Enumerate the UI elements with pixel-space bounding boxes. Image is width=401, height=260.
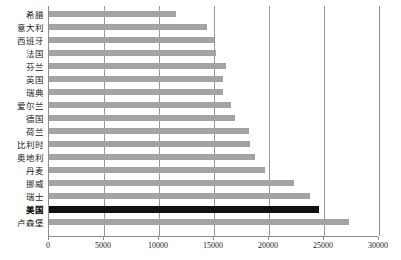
category-label-2: 意大利 [0,24,44,33]
bars-layer [49,6,378,236]
tick-label-5000: 5000 [95,241,111,251]
bar-row [49,177,379,190]
bar-row [49,125,379,138]
bar-row [49,47,379,60]
category-label-1: 希腊 [0,11,44,20]
category-label-7: 瑞典 [0,89,44,98]
bar-7 [49,89,223,95]
category-label-5: 芬兰 [0,63,44,72]
tick-mark-30000 [378,237,379,240]
bar-8 [49,102,231,108]
bar-6 [49,76,223,82]
bar-row [49,99,379,112]
tick-label-10000: 10000 [148,241,168,251]
bar-row [49,112,379,125]
bar-row [49,8,379,21]
category-axis: 希腊意大利西班牙法国芬兰英国瑞典爱尔兰德国荷兰比利时奥地利丹麦挪威瑞士美国卢森堡 [0,8,46,236]
bar-17 [49,219,349,225]
bar-chart: 希腊意大利西班牙法国芬兰英国瑞典爱尔兰德国荷兰比利时奥地利丹麦挪威瑞士美国卢森堡… [0,0,401,260]
category-label-16: 美国 [0,206,44,215]
bar-row [49,21,379,34]
category-label-3: 西班牙 [0,37,44,46]
bar-row [49,138,379,151]
bar-4 [49,50,216,56]
plot-area [48,6,378,237]
tick-label-0: 0 [46,241,50,251]
bar-row [49,86,379,99]
category-label-13: 丹麦 [0,167,44,176]
tick-mark-0 [48,237,49,240]
category-label-17: 卢森堡 [0,219,44,228]
bar-12 [49,154,255,160]
value-axis: 050001000015000200002500030000 [48,237,378,257]
category-label-15: 瑞士 [0,193,44,202]
bar-row [49,203,379,216]
tick-label-30000: 30000 [368,241,388,251]
bar-row [49,34,379,47]
tick-mark-5000 [103,237,104,240]
bar-16 [49,206,319,213]
bar-9 [49,115,235,121]
tick-label-20000: 20000 [258,241,278,251]
bar-15 [49,193,310,199]
category-label-12: 奥地利 [0,154,44,163]
category-label-10: 荷兰 [0,128,44,137]
tick-label-25000: 25000 [313,241,333,251]
bar-13 [49,167,265,173]
category-label-8: 爱尔兰 [0,102,44,111]
bar-10 [49,128,249,134]
gridline-30000 [379,6,380,236]
bar-row [49,164,379,177]
bar-row [49,216,379,229]
bar-row [49,151,379,164]
bar-3 [49,37,214,43]
bar-5 [49,63,226,69]
bar-2 [49,24,207,30]
tick-mark-20000 [268,237,269,240]
category-label-6: 英国 [0,76,44,85]
category-label-14: 挪威 [0,180,44,189]
bar-11 [49,141,250,147]
tick-mark-15000 [213,237,214,240]
bar-row [49,73,379,86]
category-label-11: 比利时 [0,141,44,150]
category-label-4: 法国 [0,50,44,59]
bar-1 [49,11,176,17]
tick-mark-25000 [323,237,324,240]
tick-label-15000: 15000 [203,241,223,251]
bar-row [49,60,379,73]
bar-14 [49,180,294,186]
category-label-9: 德国 [0,115,44,124]
tick-mark-10000 [158,237,159,240]
bar-row [49,190,379,203]
